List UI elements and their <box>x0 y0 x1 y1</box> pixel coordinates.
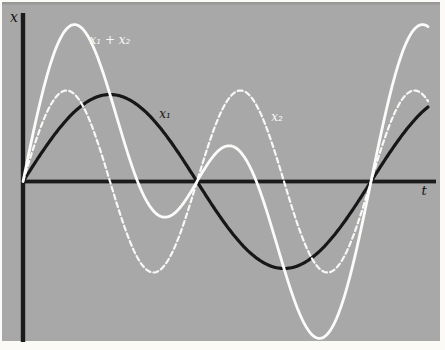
x-axis-label: t <box>421 183 427 198</box>
plot-top-edge-shadow <box>2 2 440 5</box>
waveform-sum-figure: x t x₁ + x₂ x₁ x₂ <box>0 0 445 350</box>
curve-label-x1-plus-x2: x₁ + x₂ <box>90 33 131 47</box>
curve-label-x2: x₂ <box>271 110 283 124</box>
t-axis <box>21 180 436 184</box>
curve-label-x1: x₁ <box>159 107 171 121</box>
scanned-figure-page: x t x₁ + x₂ x₁ x₂ <box>0 0 445 350</box>
y-axis-label: x <box>10 9 18 25</box>
